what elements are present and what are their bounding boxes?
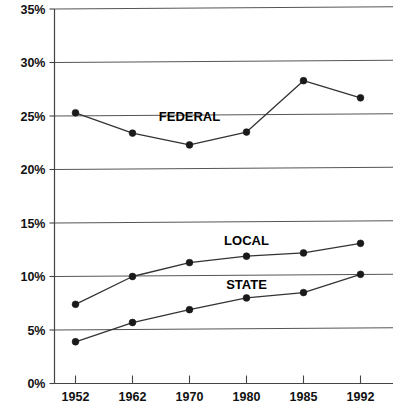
y-tick-label: 15% — [20, 217, 45, 231]
y-tick-label: 35% — [20, 3, 45, 17]
series-line-local — [76, 243, 361, 304]
data-point — [186, 306, 193, 313]
data-point — [243, 253, 250, 260]
data-point — [129, 273, 136, 280]
series-line-state — [76, 274, 361, 341]
line-chart: 0%5%10%15%20%25%30%35% 19521962197019801… — [0, 0, 398, 420]
series-label-federal: FEDERAL — [159, 109, 220, 124]
data-point — [186, 141, 193, 148]
y-tick-label: 10% — [20, 270, 45, 284]
data-point — [357, 271, 364, 278]
data-point — [243, 129, 250, 136]
gridline — [55, 328, 394, 330]
gridlines — [55, 7, 394, 384]
chart-container: 0%5%10%15%20%25%30%35% 19521962197019801… — [0, 0, 398, 420]
x-tick-label: 1980 — [233, 390, 261, 404]
data-point — [300, 289, 307, 296]
gridline — [55, 274, 394, 276]
x-tick-label: 1992 — [347, 390, 375, 404]
y-tick-marks — [50, 9, 55, 384]
data-point — [300, 250, 307, 257]
x-tick-marks — [76, 376, 361, 384]
gridline — [55, 221, 394, 223]
gridline — [55, 7, 394, 9]
data-point — [357, 94, 364, 101]
y-tick-label: 30% — [20, 56, 45, 70]
data-point — [72, 338, 79, 345]
series-label-state: STATE — [226, 277, 267, 292]
x-tick-label: 1970 — [176, 390, 204, 404]
data-point — [300, 77, 307, 84]
series-labels: FEDERALLOCALSTATE — [159, 109, 269, 292]
y-tick-label: 20% — [20, 163, 45, 177]
gridline — [55, 60, 394, 62]
data-point — [72, 301, 79, 308]
x-tick-label: 1962 — [119, 390, 147, 404]
x-axis-tick-labels: 195219621970198019851992 — [62, 390, 375, 404]
data-point — [357, 240, 364, 247]
gridline — [55, 114, 394, 116]
data-point — [186, 259, 193, 266]
data-point — [72, 109, 79, 116]
data-point — [129, 130, 136, 137]
y-axis-tick-labels: 0%5%10%15%20%25%30%35% — [20, 3, 45, 392]
series-label-local: LOCAL — [224, 233, 269, 248]
y-tick-label: 0% — [27, 377, 45, 391]
x-tick-label: 1985 — [290, 390, 318, 404]
data-point — [243, 295, 250, 302]
y-tick-label: 5% — [27, 324, 45, 338]
y-tick-label: 25% — [20, 110, 45, 124]
gridline — [55, 167, 394, 169]
data-point — [129, 319, 136, 326]
x-tick-label: 1952 — [62, 390, 90, 404]
